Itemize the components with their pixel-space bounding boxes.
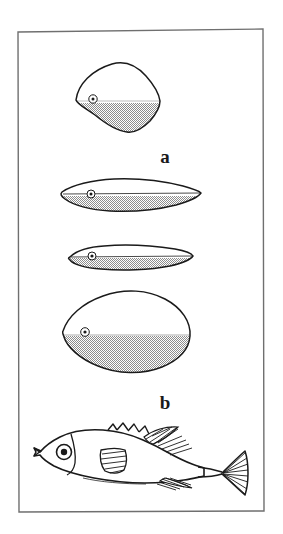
panel-b-label: b [160, 392, 171, 413]
panel-a-label: a [160, 146, 170, 167]
eye-icon [88, 252, 96, 260]
eye-icon [81, 328, 90, 337]
fish-eye-icon [57, 445, 72, 460]
figure-svg: a [0, 0, 283, 534]
figure-root: a [0, 0, 283, 534]
eye-icon [89, 95, 97, 103]
eye-icon [87, 190, 95, 198]
